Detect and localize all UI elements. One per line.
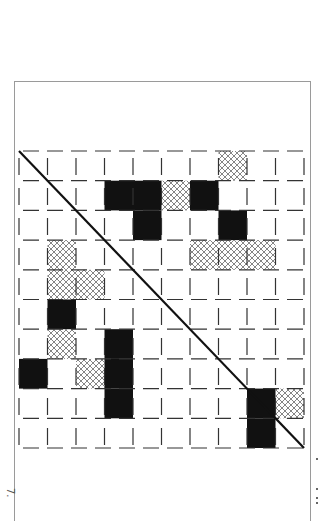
hatched-cell [48,270,77,300]
black-cell [133,210,162,240]
hatched-cell [76,270,105,300]
black-cell [133,181,162,211]
black-cell [219,210,248,240]
hatched-cell [247,240,276,270]
black-cell [105,329,134,359]
black-cell [19,359,48,389]
hatched-cell [190,240,219,270]
hatched-cell [48,240,77,270]
black-cell [105,389,134,419]
black-cell [190,181,219,211]
black-cell [247,418,276,448]
hatched-cell [76,359,105,389]
hatched-cell [162,181,191,211]
black-cell [105,181,134,211]
black-cell [48,300,77,330]
black-cell [105,359,134,389]
hatched-cell [276,389,305,419]
hatched-cell [219,151,248,181]
hatched-cell [219,240,248,270]
figure-caption-fragment: 7. [5,488,16,498]
margin-marks [316,455,322,510]
hatched-cell [48,329,77,359]
